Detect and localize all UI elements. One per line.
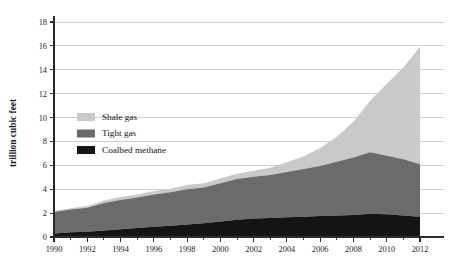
- x-tick-label-2000: 2000: [212, 245, 229, 254]
- y-tick-label-2: 2: [43, 209, 47, 218]
- x-tick-label-2012: 2012: [412, 245, 429, 254]
- legend-swatch-shale-gas: [77, 113, 95, 121]
- chart-container: 024681012141618 199019921994199619982000…: [0, 0, 468, 269]
- x-tick-label-2004: 2004: [279, 245, 297, 254]
- legend-label-tight-gas: Tight gas: [102, 128, 137, 138]
- y-tick-label-18: 18: [39, 18, 47, 27]
- x-tick-label-1990: 1990: [46, 245, 63, 254]
- y-tick-label-12: 12: [39, 90, 47, 99]
- y-tick-label-0: 0: [43, 233, 47, 242]
- y-tick-label-16: 16: [39, 42, 47, 51]
- x-tick-label-2002: 2002: [245, 245, 262, 254]
- x-tick-label-1994: 1994: [112, 245, 130, 254]
- y-tick-label-10: 10: [39, 114, 47, 123]
- stacked-area-chart: 024681012141618 199019921994199619982000…: [0, 0, 468, 269]
- x-tick-label-2010: 2010: [378, 245, 395, 254]
- y-tick-label-6: 6: [43, 161, 47, 170]
- x-tick-label-1992: 1992: [79, 245, 96, 254]
- legend-swatch-tight-gas: [77, 130, 95, 138]
- legend-label-shale-gas: Shale gas: [102, 112, 137, 122]
- y-tick-label-8: 8: [43, 137, 47, 146]
- x-tick-label-1998: 1998: [179, 245, 196, 254]
- x-tick-label-2006: 2006: [312, 245, 329, 254]
- x-tick-label-2008: 2008: [345, 245, 362, 254]
- legend-label-coalbed-methane: Coalbed methane: [102, 145, 166, 155]
- x-tick-label-1996: 1996: [145, 245, 162, 254]
- y-axis-title: trillion cubic feet: [8, 98, 18, 167]
- y-tick-label-14: 14: [39, 66, 48, 75]
- legend-swatch-coalbed-methane: [77, 146, 95, 154]
